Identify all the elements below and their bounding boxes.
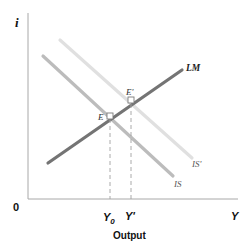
y-axis-label: i	[15, 15, 19, 30]
x-axis-title: Output	[113, 230, 146, 241]
is-prime-label: IS'	[191, 159, 202, 169]
x-axis-label: Y	[231, 210, 240, 222]
is-lm-diagram: E E' LM IS IS' i 0 Y Y0 Y' Output	[0, 0, 251, 251]
y0-tick-subscript: 0	[110, 217, 115, 226]
point-e-prime-marker	[128, 97, 134, 103]
lm-curve	[48, 70, 182, 163]
origin-label: 0	[13, 201, 19, 213]
lm-label: LM	[185, 63, 201, 73]
y0-tick-label: Y0	[103, 211, 115, 226]
is-label: IS	[173, 179, 182, 189]
point-e-marker	[107, 113, 113, 119]
point-e-label: E	[97, 112, 104, 122]
y-prime-tick-label: Y'	[125, 210, 135, 222]
point-e-prime-label: E'	[125, 87, 134, 97]
